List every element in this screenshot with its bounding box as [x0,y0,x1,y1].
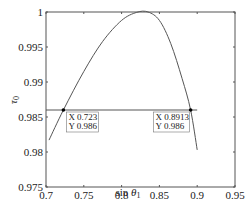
x-tick-label: 0.9 [190,189,204,200]
data-point-marker [62,108,66,112]
datatip-y: Y 0.986 [156,121,185,131]
y-tick-label: 0.985 [18,111,43,123]
x-axis-label: sin θ1 [116,186,141,200]
x-tick-label: 0.75 [74,189,94,200]
data-point-marker [189,108,193,112]
axes-box [46,12,235,187]
y-tick-label: 0.99 [24,76,44,88]
y-tick-label: 0.98 [24,146,44,158]
y-tick-label: 0.975 [18,181,43,193]
datatip-y: Y 0.986 [68,121,97,131]
y-axis-label: τ0 [7,96,21,104]
y-tick-label: 1 [38,6,44,18]
x-tick-label: 0.85 [150,189,170,200]
x-tick-label: 0.95 [225,189,245,200]
chart: 0.70.750.80.850.90.950.9750.980.9850.990… [0,0,252,200]
plot-area: 0.70.750.80.850.90.950.9750.980.9850.990… [18,6,245,200]
y-tick-label: 0.995 [18,41,43,53]
